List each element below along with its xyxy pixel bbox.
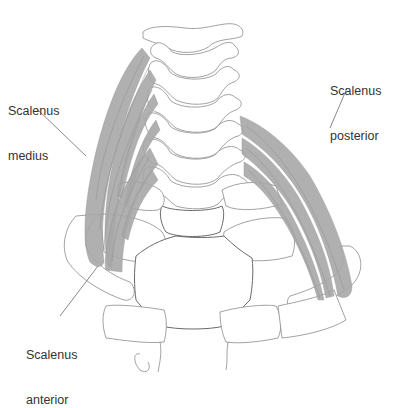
label-scalenus-posterior-line1: Scalenus bbox=[330, 84, 381, 99]
label-scalenus-anterior-line1: Scalenus bbox=[26, 348, 77, 363]
label-scalenus-anterior: Scalenus anterior bbox=[26, 318, 77, 408]
label-scalenus-medius: Scalenus medius bbox=[8, 74, 59, 194]
label-scalenus-medius-line2: medius bbox=[8, 149, 59, 164]
label-scalenus-anterior-line2: anterior bbox=[26, 393, 77, 408]
label-scalenus-medius-line1: Scalenus bbox=[8, 104, 59, 119]
label-scalenus-posterior-line2: posterior bbox=[330, 129, 381, 144]
label-scalenus-posterior: Scalenus posterior bbox=[330, 54, 381, 174]
